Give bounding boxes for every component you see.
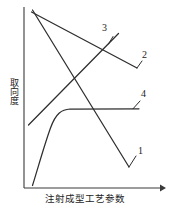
- curve-2: [32, 12, 138, 68]
- curve-1-leader: [129, 156, 136, 167]
- curve-2-label: 2: [142, 50, 147, 60]
- x-axis-title: 注射成型工艺参数: [0, 194, 169, 204]
- figure-container: 3 2 4 1 取向度 注射成型工艺参数: [0, 0, 169, 214]
- curve-3: [29, 34, 119, 126]
- curve-3-label: 3: [102, 23, 107, 33]
- curve-4: [33, 109, 140, 186]
- curve-4-leader: [133, 101, 140, 109]
- diagram-canvas: [0, 0, 169, 214]
- curve-2-leader: [137, 61, 142, 68]
- curve-1-label: 1: [138, 146, 143, 156]
- curve-4-label: 4: [141, 89, 146, 99]
- curve-1: [33, 10, 130, 167]
- y-axis-title: 取向度: [4, 78, 18, 105]
- x-axis-arrowhead: [160, 185, 166, 192]
